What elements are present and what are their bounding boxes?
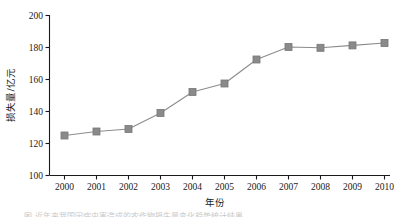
data-point-2007 [285, 44, 292, 51]
y-axis-title: 损失量/亿元 [5, 68, 16, 121]
x-tick-label-2001: 2001 [87, 182, 106, 192]
y-tick-label-200: 200 [29, 11, 44, 21]
y-tick-label-160: 160 [29, 75, 44, 85]
data-point-2002 [125, 126, 132, 133]
x-axis-title: 年份 [205, 197, 225, 208]
line-chart-svg: 200 180 160 140 120 100 2000 2001 2002 [0, 0, 403, 218]
x-tick-label-2000: 2000 [55, 182, 74, 192]
x-tick-label-2004: 2004 [183, 182, 202, 192]
x-axis-tick-labels: 2000 2001 2002 2003 2004 2005 2006 2007 … [55, 182, 394, 192]
x-tick-label-2002: 2002 [119, 182, 138, 192]
data-point-2008 [317, 44, 324, 51]
data-point-2010 [381, 40, 388, 47]
y-tick-label-140: 140 [29, 107, 44, 117]
x-tick-label-2005: 2005 [215, 182, 234, 192]
x-tick-label-2006: 2006 [247, 182, 266, 192]
chart-figure: 200 180 160 140 120 100 2000 2001 2002 [0, 0, 403, 218]
x-tick-label-2010: 2010 [375, 182, 394, 192]
data-point-2006 [253, 56, 260, 63]
data-point-2005 [221, 80, 228, 87]
x-tick-label-2008: 2008 [311, 182, 330, 192]
y-tick-label-100: 100 [29, 171, 44, 181]
y-tick-label-120: 120 [29, 139, 44, 149]
data-point-2003 [157, 110, 164, 117]
data-point-2001 [93, 128, 100, 135]
x-tick-label-2007: 2007 [279, 182, 298, 192]
data-point-2000 [61, 132, 68, 139]
y-tick-label-180: 180 [29, 43, 44, 53]
x-tick-label-2003: 2003 [151, 182, 170, 192]
figure-caption-sliver: 图 近年来我国因病虫害造成的农作物损失量变化趋势统计结果 [24, 210, 380, 217]
data-point-2004 [189, 89, 196, 96]
data-point-2009 [349, 42, 356, 49]
x-tick-label-2009: 2009 [343, 182, 362, 192]
